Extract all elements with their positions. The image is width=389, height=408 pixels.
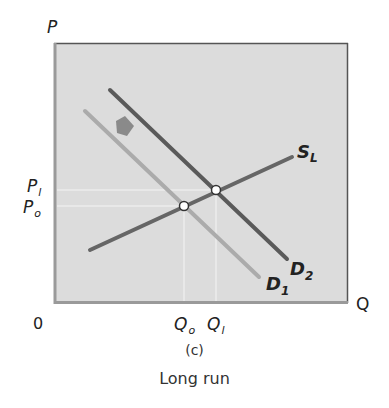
p1-label: Pl (27, 176, 41, 199)
equilibrium-point-e1 (212, 186, 221, 195)
p0-label: Po (23, 197, 41, 220)
x-axis-label: Q (356, 294, 369, 314)
equilibrium-point-e0 (180, 202, 189, 211)
origin-label: 0 (33, 314, 43, 333)
q0-label: Qo (174, 314, 195, 337)
panel-label: (c) (0, 342, 389, 358)
q1-label: Ql (207, 314, 224, 337)
panel-title: Long run (0, 369, 389, 388)
y-axis-label: P (47, 17, 58, 37)
